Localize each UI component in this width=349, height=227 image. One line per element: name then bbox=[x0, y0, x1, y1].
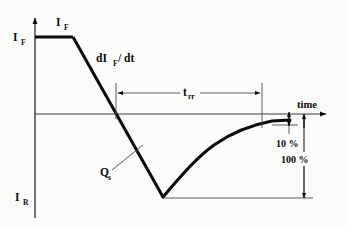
ten-percent-dimension-group bbox=[272, 112, 298, 134]
y-axis-top-label: I bbox=[13, 31, 18, 43]
x-axis-label: time bbox=[297, 99, 317, 110]
waveform-canvas: I F I F dI F / dt t rr Q s I R time 10 %… bbox=[0, 0, 349, 227]
y-axis-bottom-label-sub: R bbox=[23, 198, 29, 207]
reverse-recovery-curve-segment bbox=[163, 120, 290, 197]
recovery-waveform-figure: I F I F dI F / dt t rr Q s I R time 10 %… bbox=[0, 0, 349, 227]
stored-charge-label-sub: s bbox=[108, 173, 111, 182]
slope-label-tail: / dt bbox=[117, 52, 134, 64]
plateau-label: I bbox=[56, 16, 61, 28]
ten-percent-label: 10 % bbox=[276, 138, 299, 149]
label-group: I F I F dI F / dt t rr Q s I R time 10 %… bbox=[13, 16, 317, 207]
diode-current-waveform bbox=[35, 37, 290, 197]
trr-dimension-group bbox=[116, 83, 262, 128]
y-axis-top-label-sub: F bbox=[21, 38, 26, 47]
hundred-percent-label: 100 % bbox=[281, 154, 309, 165]
trr-label-sub: rr bbox=[188, 92, 195, 101]
slope-label: dI bbox=[96, 52, 107, 64]
y-axis-bottom-label: I bbox=[15, 191, 20, 203]
plateau-label-sub: F bbox=[64, 23, 69, 32]
trr-label: t bbox=[183, 86, 187, 98]
stored-charge-leader-line bbox=[112, 145, 143, 170]
